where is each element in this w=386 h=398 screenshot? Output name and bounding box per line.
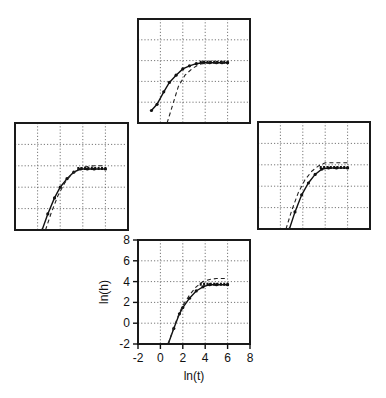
chart-figure: -20246886420-2ln(t)ln(h) [0, 0, 386, 398]
solid-series-line [42, 169, 105, 230]
data-marker [347, 166, 349, 169]
plot-frame [138, 240, 250, 344]
y-tick-label: -2 [119, 337, 130, 351]
solid-series-line [289, 168, 347, 229]
panel-right [258, 122, 370, 231]
data-marker [340, 166, 342, 169]
grid-lines [15, 123, 128, 230]
data-marker [155, 103, 158, 106]
y-tick-label: 2 [123, 295, 130, 309]
x-tick-label: -2 [133, 351, 144, 365]
series-group [167, 279, 230, 346]
data-marker [300, 193, 303, 196]
data-marker [227, 61, 229, 64]
data-marker [337, 166, 339, 169]
data-marker [320, 166, 322, 169]
data-marker [343, 166, 345, 169]
y-tick-label: 4 [123, 275, 130, 289]
x-tick-label: 4 [202, 351, 209, 365]
data-marker [162, 90, 165, 93]
data-marker [213, 283, 215, 286]
data-marker [87, 167, 89, 170]
axes: -20246886420-2ln(t)ln(h) [97, 233, 254, 383]
data-marker [94, 167, 96, 170]
data-marker [195, 289, 198, 292]
data-marker [323, 166, 325, 169]
dashed-series-line [167, 63, 228, 123]
data-marker [101, 167, 103, 170]
dashed-series-line [168, 279, 227, 345]
x-axis-label: ln(t) [184, 369, 205, 383]
data-marker [174, 74, 177, 77]
data-marker [220, 283, 222, 286]
data-marker [330, 166, 332, 169]
data-marker [91, 167, 93, 170]
data-marker [200, 61, 202, 64]
series-group [150, 61, 229, 123]
data-marker [104, 167, 106, 170]
series-group [41, 166, 107, 232]
data-marker [195, 62, 198, 65]
solid-series-line [151, 63, 227, 111]
data-marker [188, 64, 191, 67]
grid-lines [138, 240, 250, 344]
x-tick-label: 2 [179, 351, 186, 365]
panel-left [15, 123, 128, 232]
data-marker [223, 283, 225, 286]
y-tick-label: 0 [123, 316, 130, 330]
x-tick-label: 0 [157, 351, 164, 365]
data-marker [46, 212, 49, 215]
data-marker [181, 67, 184, 70]
data-marker [206, 283, 208, 286]
data-marker [314, 173, 317, 176]
data-marker [217, 283, 219, 286]
y-tick-label: 6 [123, 254, 130, 268]
series-group [286, 163, 349, 231]
data-marker [98, 167, 100, 170]
data-marker [326, 166, 328, 169]
plot-frame [15, 123, 128, 230]
solid-series-line [168, 285, 227, 344]
data-marker [333, 166, 335, 169]
data-marker [227, 283, 229, 286]
y-axis-label: ln(h) [97, 280, 111, 304]
data-marker [168, 81, 171, 84]
data-marker [53, 196, 56, 199]
y-tick-label: 8 [123, 233, 130, 247]
x-tick-label: 8 [247, 351, 254, 365]
data-marker [210, 283, 212, 286]
data-marker [293, 210, 296, 213]
data-marker [203, 283, 205, 286]
panel-bottom: -20246886420-2ln(t)ln(h) [97, 233, 254, 383]
data-marker [307, 181, 310, 184]
panel-top [138, 19, 250, 123]
data-marker [150, 109, 153, 112]
x-tick-label: 6 [224, 351, 231, 365]
